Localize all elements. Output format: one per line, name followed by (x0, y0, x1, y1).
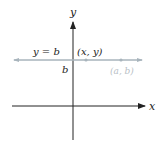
point-xy (84, 58, 87, 61)
point-xy-label: (x, y) (77, 46, 103, 57)
point-ab-label: (a, b) (110, 66, 134, 76)
x-axis-label: x (149, 100, 156, 113)
point-ab (119, 58, 122, 61)
y-axis-label: y (69, 6, 77, 19)
line-equation-label: y = b (32, 46, 60, 57)
diagram-canvas: y x y = b (x, y) b (a, b) (0, 0, 161, 147)
intercept-label: b (62, 64, 68, 75)
